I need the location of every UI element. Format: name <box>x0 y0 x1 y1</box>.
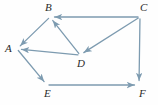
vertex-label-A: A <box>5 43 12 54</box>
graph-edge-C-D <box>84 18 139 53</box>
graph-edge-A-E <box>18 51 44 82</box>
vertex-label-B: B <box>45 2 52 13</box>
vertex-label-C: C <box>140 2 147 13</box>
graph-edge-D-B <box>53 21 79 54</box>
graph-edge-D-A <box>21 49 78 54</box>
vertex-label-F: F <box>139 88 146 99</box>
graph-edge-C-F <box>139 19 140 81</box>
directed-graph-figure: A B C D E F <box>0 0 158 105</box>
edge-layer <box>18 17 140 85</box>
vertex-label-E: E <box>44 88 51 99</box>
graph-edge-B-A <box>20 18 48 45</box>
graph-canvas <box>0 0 158 105</box>
vertex-label-D: D <box>77 58 85 69</box>
